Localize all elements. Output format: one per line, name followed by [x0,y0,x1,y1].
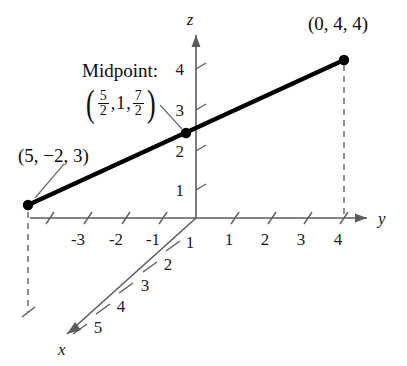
z-tick-label-4: 4 [176,60,185,79]
figure-root: z y x -3 -2 -1 1 2 3 4 4 3 2 1 1 2 3 4 5… [0,0,407,366]
z-tick-label-1: 1 [176,181,185,200]
z-axis-arrowhead [192,35,201,47]
midpoint-comma-2: , [126,93,131,114]
right-point-label: (0, 4, 4) [308,13,368,35]
x-axis-line [67,218,196,334]
z-tick-label-2: 2 [176,142,185,161]
y-axis-group [30,212,367,224]
y-tick-label-1: 1 [225,230,234,249]
coordinate-figure: z y x -3 -2 -1 1 2 3 4 4 3 2 1 1 2 3 4 5… [0,0,407,366]
x-tick-label-1: 1 [186,233,195,252]
y-axis-arrowhead [355,214,367,223]
z-tick-4 [196,63,206,69]
z-tick-2 [196,145,206,151]
midpoint-z-fraction: 7 2 [133,89,144,119]
y-axis-label: y [376,209,386,228]
midpoint-x-numerator: 5 [98,89,109,103]
z-tick-label-3: 3 [176,101,185,120]
x-tick-label-5: 5 [94,318,103,337]
z-tick-3 [196,104,206,110]
midpoint-x-denominator: 2 [98,104,109,118]
midpoint-comma-1: , [111,93,116,114]
y-tick-label--1: -1 [146,230,160,249]
midpoint-y-value: 1 [116,93,125,114]
midpoint-close-paren: ) [147,88,156,119]
y-tick-label-3: 3 [297,230,306,249]
midpoint-x-fraction: 5 2 [98,89,109,119]
y-tick-label--3: -3 [71,230,85,249]
midpoint-open-paren: ( [86,88,95,119]
x-tick-label-3: 3 [141,276,150,295]
y-tick-label-4: 4 [334,230,343,249]
point-dot-left [23,200,33,210]
left-projection-tick [22,307,35,317]
midpoint-coordinate-label: ( 5 2 , 1 , 7 2 ) [84,88,157,119]
x-axis-label: x [57,340,66,359]
point-dot-midpoint [181,128,191,138]
midpoint-z-numerator: 7 [133,89,144,103]
left-point-label: (5, −2, 3) [18,145,89,167]
x-tick-label-4: 4 [117,297,126,316]
z-tick-1 [196,184,206,190]
y-tick-label--2: -2 [109,230,123,249]
midpoint-z-denominator: 2 [133,104,144,118]
x-tick-label-2: 2 [164,255,173,274]
point-dot-right [339,55,349,65]
midpoint-word-label: Midpoint: [82,60,158,81]
z-axis-label: z [186,10,194,29]
x-axis-group [67,218,196,334]
y-tick-label-2: 2 [261,230,270,249]
